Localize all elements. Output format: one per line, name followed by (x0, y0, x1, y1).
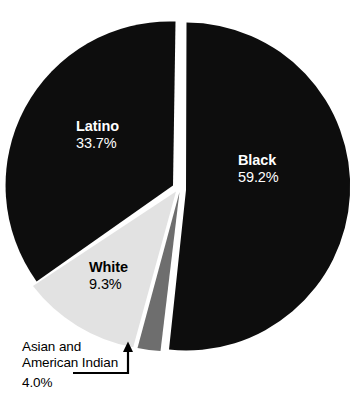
slice-label-latino: Latino 33.7% (76, 118, 119, 152)
slice-label-latino-value: 33.7% (76, 135, 119, 152)
slice-callout-value: 4.0% (22, 375, 118, 391)
slice-callout-asian-american-indian: Asian and American Indian 4.0% (22, 339, 118, 391)
slice-label-white-value: 9.3% (89, 276, 128, 293)
slice-label-white: White 9.3% (89, 259, 128, 293)
slice-label-black: Black 59.2% (238, 152, 279, 186)
slice-label-white-name: White (89, 259, 128, 276)
slice-callout-line-1: Asian and (22, 339, 118, 355)
slice-label-latino-name: Latino (76, 118, 119, 135)
pie-chart: Black 59.2% Latino 33.7% White 9.3% Asia… (0, 0, 362, 405)
pie-slice-black[interactable] (169, 23, 350, 351)
slice-callout-line-2: American Indian (22, 355, 118, 371)
slice-label-black-name: Black (238, 152, 279, 169)
slice-label-black-value: 59.2% (238, 169, 279, 186)
